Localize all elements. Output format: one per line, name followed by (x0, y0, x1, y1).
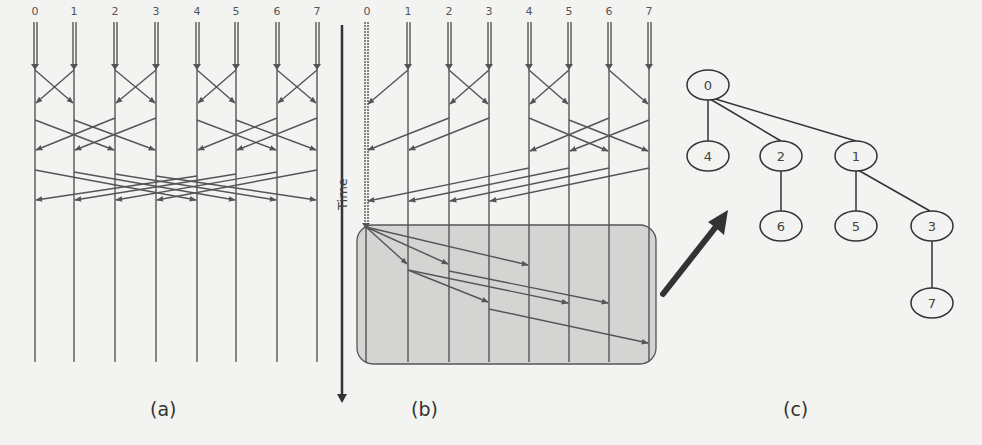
node-label: 0 (32, 5, 39, 18)
tree-node-label: 6 (777, 219, 785, 234)
node-label: 3 (486, 5, 493, 18)
node-label: 4 (526, 5, 533, 18)
broadcast-region (357, 225, 656, 364)
caption-c: (c) (783, 398, 808, 420)
caption-a: (a) (150, 398, 176, 420)
node-label: 2 (446, 5, 453, 18)
node-label: 5 (233, 5, 240, 18)
transform-arrow (663, 210, 728, 294)
panel-a-stage-3 (35, 170, 317, 200)
panel-c-tree: 0 4 2 1 6 5 3 7 (687, 70, 953, 318)
node-label: 7 (314, 5, 321, 18)
panel-a-input-arrows (31, 22, 321, 70)
node-label: 7 (646, 5, 653, 18)
node-label: 6 (274, 5, 281, 18)
node-label: 0 (364, 5, 371, 18)
panel-a-stage-1 (35, 70, 317, 103)
tree-node-label: 3 (928, 219, 936, 234)
node-label: 2 (112, 5, 119, 18)
panel-a-butterfly: 0 1 2 3 4 5 6 7 (31, 5, 321, 362)
panel-a-timelines (35, 66, 317, 362)
panel-a-node-labels: 0 1 2 3 4 5 6 7 (32, 5, 321, 18)
time-axis: Time (335, 25, 350, 403)
tree-node-label: 4 (704, 149, 712, 164)
node-label: 1 (405, 5, 412, 18)
panel-b-gather-broadcast: 0 1 2 3 4 5 6 7 (357, 5, 656, 364)
tree-node-label: 0 (704, 78, 712, 93)
time-axis-label: Time (335, 178, 350, 211)
caption-b: (b) (411, 398, 438, 420)
tree-node-label: 5 (852, 219, 860, 234)
node-label: 6 (606, 5, 613, 18)
tree-node-label: 2 (777, 149, 785, 164)
tree-node-label: 1 (852, 149, 860, 164)
node-label: 1 (71, 5, 78, 18)
node-label: 5 (566, 5, 573, 18)
tree-node-label: 7 (928, 296, 936, 311)
figure: 0 1 2 3 4 5 6 7 (0, 0, 982, 445)
panel-a-stage-2 (35, 118, 317, 150)
node-label: 4 (194, 5, 201, 18)
node-label: 3 (153, 5, 160, 18)
